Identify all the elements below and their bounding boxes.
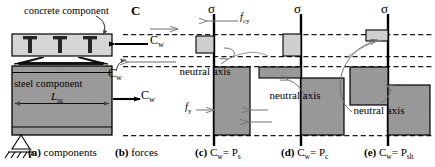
force-label-steel: Cw [141,89,155,105]
caption-b: (b) forces [115,147,158,158]
panel-e-compression-block [366,30,388,41]
fy-subscript: y [188,107,192,115]
support-hatch-1 [5,152,9,158]
caption-c-eq-sub: s [238,152,241,161]
stud-shank-1 [28,38,32,53]
panel-c-neutral-axis-label: neutral axis [179,66,231,77]
caption-e-eq-sub: sh [407,152,414,161]
bearing-connection [14,58,108,65]
length-subscript: ss [57,96,63,105]
caption-e: (e) Cw= Psh [364,147,413,161]
panel-d-sigma-label: σ [294,2,301,15]
force-label-concrete: Cw [150,34,164,50]
fcy-subscript: cy [243,17,250,25]
caption-d-eq-sub: c [325,152,328,161]
caption-c-eq: = P [223,146,238,158]
caption-c-letter: (c) [195,146,207,158]
panel-c-stress-diagram [196,14,268,146]
force-subscript: w [149,95,155,104]
panel-d-tension-block [301,78,344,135]
panel-c-compression-block [196,36,214,53]
panel-d-neutral-axis-label: neutral axis [268,90,322,101]
caption-e-eq: = P [392,146,407,158]
panel-e-stress-diagram [340,14,430,146]
composite-beam-stress-figure: concrete component steel component Lss C… [0,0,435,167]
concrete-label-leader [96,16,105,35]
force-subscript: w [158,40,164,49]
stud-shank-2 [58,38,62,53]
concrete-component-label: concrete component [24,6,109,17]
support-hatch-2 [11,152,15,158]
caption-c: (c) Cw= Ps [195,147,241,161]
force-label-interface: Cw [108,67,122,83]
panel-e-neutral-axis-label: neutral axis [352,105,406,116]
caption-d-letter: (d) [281,146,294,158]
caption-a: (a) components [28,147,97,158]
support-hatch-4 [23,152,27,158]
panel-e-sigma-label: σ [381,2,388,15]
panel-e-steel-block-left [350,67,388,105]
caption-d-text: C [297,146,304,158]
caption-e-letter: (e) [364,146,376,158]
force-symbol: C [141,88,149,102]
panel-d-stress-diagram [248,14,344,146]
force-symbol: C [108,66,116,80]
caption-b-letter: (b) [115,146,128,158]
steel-component-label: steel component [14,79,83,90]
steel-length-label: Lss [51,91,63,105]
caption-a-letter: (a) [28,146,41,158]
caption-a-text: components [44,146,97,158]
force-subscript: w [116,73,122,82]
cross-panel-leaders [232,40,382,58]
stud-head-2 [53,36,67,39]
stud-head-1 [23,36,37,39]
steel-yield-stress-label: fy [185,102,191,115]
panel-c-neutral-axis-leader [224,48,234,59]
caption-b-text: forces [131,146,158,158]
bearing-plate [19,62,103,64]
panel-c-sigma-label: σ [208,2,215,15]
resultant-force-label: C [131,4,140,17]
panel-d-steel-strip [259,67,301,78]
support-hatch-3 [17,152,21,158]
caption-d: (d) Cw= Pc [281,147,328,161]
force-symbol: C [150,33,158,47]
panel-d-compression-block [283,34,301,56]
stud-shank-3 [88,38,92,53]
concrete-stress-label: fcy [240,12,250,25]
caption-d-eq: = P [310,146,325,158]
stud-head-3 [83,36,97,39]
